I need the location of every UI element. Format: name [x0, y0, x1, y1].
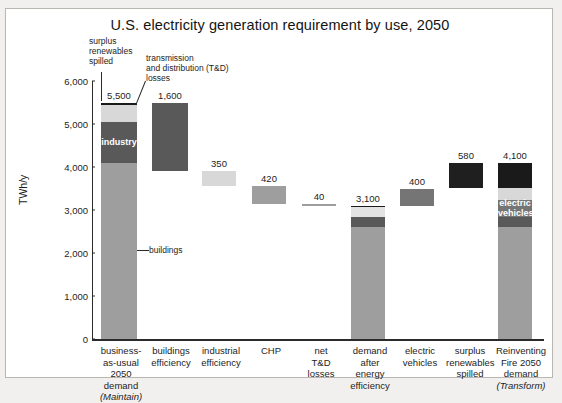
x-axis-label-line: (Transform): [494, 380, 548, 392]
x-axis-label-line: Reinventing: [494, 345, 548, 357]
x-axis-label-line: (Maintain): [98, 391, 144, 403]
y-axis-tick-mark: [92, 167, 95, 168]
x-axis-label-line: efficiency: [148, 357, 194, 369]
y-axis-tick-label: 3,000: [64, 205, 88, 216]
x-axis-label-line: spilled: [446, 368, 494, 380]
x-axis-label-line: buildings: [148, 345, 194, 357]
bar-segment-electric-vehicles: [498, 200, 532, 217]
x-axis-label-line: business-: [98, 345, 144, 357]
chart-frame: U.S. electricity generation requirement …: [5, 8, 553, 378]
bar-segment-buildings: [351, 227, 385, 339]
annotation-td-losses: transmission and distribution (T&D) loss…: [146, 53, 266, 84]
bar-segment-other: [101, 105, 137, 122]
bar-chp[interactable]: [252, 186, 286, 204]
bar-segment-buildings: [498, 227, 532, 339]
y-axis-title: TWh/y: [17, 175, 29, 205]
x-axis-label-demand-after-efficiency: demandafterenergyefficiency: [347, 345, 393, 391]
y-axis-tick-mark: [92, 210, 95, 211]
bar-value-label-buildings-efficiency: 1,600: [144, 90, 196, 101]
bar-segment-surplus-renewables-spilled: [498, 163, 532, 188]
bar-value-label-electric-vehicles: 400: [392, 176, 442, 187]
bar-value-label-industrial-efficiency: 350: [194, 158, 244, 169]
x-axis-label-line: 2050: [98, 368, 144, 380]
x-axis-label-line: Fire 2050: [494, 357, 548, 369]
y-axis-tick-label: 4,000: [64, 162, 88, 173]
y-axis-tick-mark: [92, 339, 95, 340]
y-axis-tick-mark: [92, 253, 95, 254]
bar-bau[interactable]: industry: [101, 103, 137, 340]
bar-segment-other: [498, 188, 532, 200]
x-axis-label-line: surplus: [446, 345, 494, 357]
bar-segment-other: [351, 207, 385, 217]
x-axis-label-line: efficiency: [347, 380, 393, 392]
bar-value-label-reinventing-fire: 4,100: [490, 150, 540, 161]
x-axis-label-line: demand: [494, 368, 548, 380]
x-axis-label-line: industrial: [198, 345, 244, 357]
x-axis-label-reinventing-fire: ReinventingFire 2050demand(Transform): [494, 345, 548, 391]
bar-industrial-efficiency[interactable]: [202, 171, 236, 186]
x-axis-label-chp: CHP: [248, 345, 294, 357]
x-axis-label-net-td-losses: netT&Dlosses: [298, 345, 344, 380]
x-axis-label-line: net: [298, 345, 344, 357]
x-axis-label-line: T&D: [298, 357, 344, 369]
bar-segment-buildings: [101, 163, 137, 339]
x-axis-label-buildings-efficiency: buildingsefficiency: [148, 345, 194, 368]
bar-value-label-surplus-renewables-spilled: 580: [441, 150, 491, 161]
x-axis-label-bau: business-as-usual2050demand(Maintain): [98, 345, 144, 403]
x-axis-label-line: losses: [298, 368, 344, 380]
x-axis-label-line: demand: [98, 380, 144, 392]
x-axis-label-line: as-usual: [98, 357, 144, 369]
bar-value-label-chp: 420: [244, 173, 294, 184]
bar-segment-industry: [498, 217, 532, 227]
bar-segment-industry: [351, 217, 385, 227]
bar-electric-vehicles[interactable]: [400, 189, 434, 206]
annotation-surplus-renewables-spilled: surplus renewables spilled: [89, 36, 151, 67]
x-axis-label-line: electric: [397, 345, 443, 357]
x-axis-label-line: demand: [347, 345, 393, 357]
x-axis-label-industrial-efficiency: industrialefficiency: [198, 345, 244, 368]
y-axis-tick-mark: [92, 124, 95, 125]
bar-value-label-net-td-losses: 40: [294, 191, 344, 202]
y-axis-tick-label: 1,000: [64, 291, 88, 302]
bar-reinventing-fire[interactable]: electric vehicles: [498, 163, 532, 339]
x-axis-label-line: energy: [347, 368, 393, 380]
y-axis-tick-mark: [92, 296, 95, 297]
x-axis-label-line: after: [347, 357, 393, 369]
y-axis-tick-mark: [92, 81, 95, 82]
x-axis-label-line: CHP: [248, 345, 294, 357]
bar-buildings-efficiency[interactable]: [152, 103, 188, 172]
x-axis-line: [92, 339, 544, 341]
x-axis-label-electric-vehicles: electricvehicles: [397, 345, 443, 368]
bar-value-label-demand-after-efficiency: 3,100: [343, 193, 393, 204]
y-axis-tick-label: 5,000: [64, 119, 88, 130]
x-axis-label-surplus-renewables-spilled: surplusrenewablesspilled: [446, 345, 494, 380]
x-axis-label-line: vehicles: [397, 357, 443, 369]
leader-line-buildings: [137, 250, 149, 251]
leader-line-spilled: [101, 72, 102, 101]
y-axis-tick-label: 2,000: [64, 248, 88, 259]
bar-segment-industry: [101, 122, 137, 163]
annotation-buildings: buildings: [149, 245, 183, 255]
x-axis-label-line: efficiency: [198, 357, 244, 369]
bar-surplus-renewables-spilled[interactable]: [449, 163, 483, 188]
x-axis-label-line: renewables: [446, 357, 494, 369]
y-axis-line: [92, 81, 93, 340]
y-axis-tick-label: 6,000: [64, 76, 88, 87]
bar-demand-after-efficiency[interactable]: [351, 206, 385, 339]
y-axis-tick-label: 0: [83, 334, 88, 345]
bar-net-td-losses[interactable]: [302, 204, 336, 206]
page-title: U.S. electricity generation requirement …: [6, 17, 554, 33]
